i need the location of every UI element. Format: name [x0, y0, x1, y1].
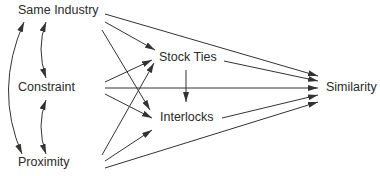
- node-similarity: Similarity: [326, 81, 377, 94]
- edge-constraint-interlocks: [105, 94, 152, 118]
- node-proximity: Proximity: [18, 156, 69, 169]
- edge-stock-ties-similarity: [224, 61, 318, 81]
- node-stock-ties: Stock Ties: [159, 51, 217, 64]
- edge-proximity-interlocks: [105, 130, 152, 161]
- corr-same-industry-constraint: [41, 22, 46, 78]
- node-constraint: Constraint: [18, 81, 75, 94]
- node-same-industry: Same Industry: [18, 4, 99, 17]
- corr-constraint-proximity: [41, 100, 46, 154]
- node-interlocks: Interlocks: [160, 111, 214, 124]
- edge-same-industry-interlocks: [102, 30, 150, 110]
- edge-proximity-stock-ties: [102, 63, 154, 155]
